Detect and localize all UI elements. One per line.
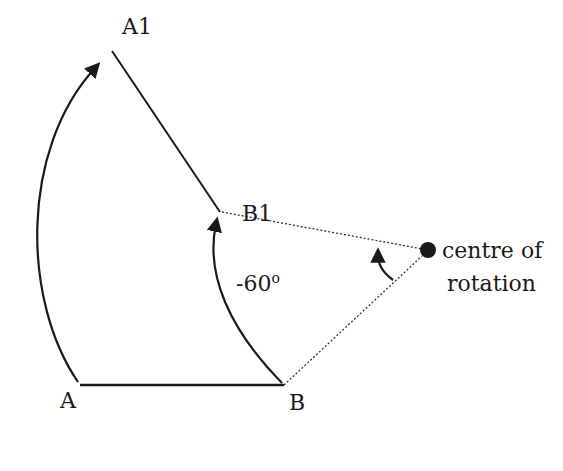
segment-a1b1 bbox=[112, 51, 220, 212]
label-b: B bbox=[289, 390, 305, 415]
degree-symbol: o bbox=[271, 270, 279, 286]
arc-a-to-a1 bbox=[37, 68, 95, 382]
arc-rotation-angle bbox=[378, 255, 393, 280]
dotted-b-centre bbox=[284, 256, 422, 385]
rotation-diagram: A1 B1 A B -60o centre of rotation bbox=[0, 0, 563, 471]
angle-label: -60o bbox=[236, 270, 280, 296]
centre-point bbox=[420, 242, 436, 258]
label-a1: A1 bbox=[121, 14, 152, 39]
label-b1: B1 bbox=[242, 201, 272, 226]
label-a: A bbox=[59, 388, 77, 413]
centre-label-line1: centre of bbox=[442, 238, 544, 263]
arc-b-to-b1 bbox=[213, 224, 282, 383]
centre-label-line2: rotation bbox=[447, 271, 536, 296]
